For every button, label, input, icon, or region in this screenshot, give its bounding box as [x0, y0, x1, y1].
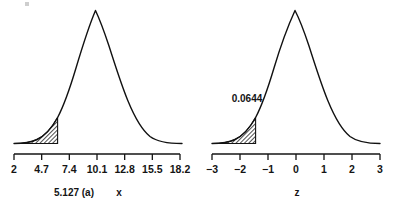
- normal-curve: [14, 11, 182, 144]
- tail-area-annotation: 0.0644: [232, 92, 263, 105]
- z-axis: [212, 154, 380, 160]
- z-distribution-plot: [196, 0, 393, 207]
- x-axis: [14, 154, 180, 160]
- normal-curve: [212, 11, 380, 144]
- figure-caption: 5.127 (a): [54, 186, 94, 199]
- normal-distribution-figure: 2 4.7 7.4 10.1 12.8 15.5 18.2 5.127 (a) …: [0, 0, 393, 207]
- panel-z-distribution: 0.0644 −3 −2 −1 0 1 2 3 z: [196, 0, 393, 207]
- panel-x-distribution: 2 4.7 7.4 10.1 12.8 15.5 18.2 5.127 (a) …: [0, 0, 196, 207]
- x-axis-title: x: [116, 186, 122, 199]
- z-axis-title: z: [295, 186, 300, 199]
- x-distribution-plot: [0, 0, 196, 207]
